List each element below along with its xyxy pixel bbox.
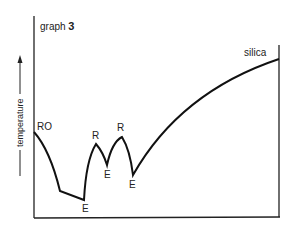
label-E-3: E <box>129 179 136 190</box>
y-axis-label: temperature <box>15 98 25 147</box>
label-E-1: E <box>82 203 89 214</box>
y-axis-label-group: temperature <box>15 55 25 176</box>
liquidus-curve <box>34 59 279 200</box>
label-R-2: R <box>117 122 124 133</box>
label-RO: RO <box>37 121 52 132</box>
bottom-axis <box>34 217 280 218</box>
arrow-up-icon <box>18 55 23 63</box>
label-silica: silica <box>244 47 267 58</box>
phase-diagram: graph 3 temperature RO E R E R E silica <box>0 0 296 228</box>
label-R-1: R <box>92 130 99 141</box>
graph-title: graph 3 <box>40 20 74 32</box>
label-E-2: E <box>104 169 111 180</box>
